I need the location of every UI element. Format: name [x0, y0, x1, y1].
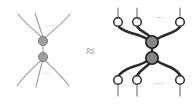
right-top-leg-3 [157, 27, 180, 39]
right-terminal-top-3[interactable] [176, 18, 185, 27]
approximately-equal-icon: ≈ [86, 43, 94, 59]
figure-canvas: ··· ··· ≈ [0, 0, 195, 105]
left-bottom-leg-1 [17, 60, 42, 86]
right-terminal-bottom-3[interactable] [176, 76, 185, 85]
right-terminal-top-2[interactable] [133, 18, 142, 27]
right-ellipsis-top: ··· [155, 14, 164, 21]
right-top-stubs [118, 8, 180, 17]
left-ellipsis-bottom: ··· [43, 70, 52, 77]
right-terminal-bottom-1[interactable] [114, 76, 123, 85]
left-node-bottom[interactable] [38, 52, 47, 61]
left-graph: ··· ··· [17, 13, 70, 87]
right-terminal-top-1[interactable] [114, 18, 123, 27]
left-top-legs [18, 13, 70, 38]
right-graph: ··· ··· [114, 8, 185, 96]
right-node-top[interactable] [146, 36, 158, 48]
left-node-top[interactable] [38, 36, 47, 45]
right-terminal-bottom-2[interactable] [133, 76, 142, 85]
left-top-leg-2 [35, 13, 43, 37]
right-bottom-leg-3 [157, 61, 180, 75]
diagram-svg: ··· ··· ≈ [0, 0, 195, 105]
left-ellipsis-top: ··· [45, 22, 54, 29]
right-ellipsis-bottom: ··· [154, 80, 163, 87]
right-node-bottom[interactable] [146, 52, 158, 64]
right-bottom-stubs [118, 85, 180, 96]
